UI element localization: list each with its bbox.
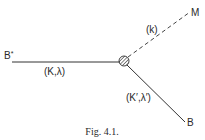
- label-edge-out: (K′,λ′): [126, 92, 151, 103]
- figure-caption: Fig. 4.1.: [85, 126, 118, 137]
- label-edge-meson: (k): [146, 24, 158, 35]
- feynman-diagram: B* M B (K,λ) (k) (K′,λ′) Fig. 4.1.: [0, 0, 205, 140]
- label-b: B: [187, 117, 194, 128]
- label-m: M: [191, 7, 199, 18]
- meson-dashed-line: [128, 12, 190, 57]
- label-edge-in: (K,λ): [44, 66, 65, 77]
- vertex-blob: [119, 56, 129, 66]
- label-b-star: B*: [4, 50, 14, 61]
